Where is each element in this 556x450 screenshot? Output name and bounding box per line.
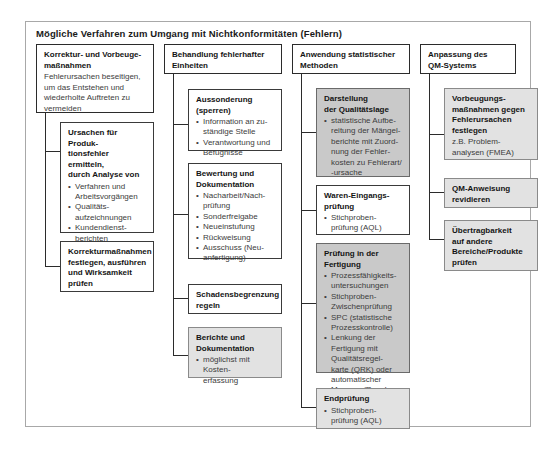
list-item: Qualitäts- aufzeichnungen: [68, 202, 147, 223]
node-schadensbegrenzung-regeln[interactable]: Schadensbegrenzung regeln: [188, 284, 282, 314]
node-title: Anpassung des QM-Systems: [428, 50, 509, 71]
node-title: Berichte und Dokumentation: [196, 333, 275, 354]
node-bewertung-dokumentation[interactable]: Bewertung und Dokumentation Nacharbeit/N…: [188, 163, 282, 259]
node-head-anwendung-statistischer-methoden[interactable]: Anwendung statistischer Methoden: [292, 44, 410, 74]
node-vorbeugungsmassnahmen[interactable]: Vorbeugungs- maßnahmen gegen Fehlerursac…: [444, 88, 538, 160]
list-item: Sonderfreigabe: [196, 212, 275, 222]
connector-horizontal-col2-child1: [173, 124, 188, 125]
node-title: Behandlung fehlerhafter Einheiten: [172, 50, 275, 71]
connector-horizontal-col4-child2: [429, 192, 444, 193]
node-subtext: Fehlerursachen beseitigen, um das Entste…: [44, 72, 147, 114]
list-item: Prozessfähigkeits- untersuchungen: [324, 271, 403, 292]
list-item: Stichproben- prüfung (AQL): [324, 406, 403, 427]
node-darstellung-qualitaetslage[interactable]: Darstellung der Qualitätslage statistisc…: [316, 88, 410, 177]
list-item: Verantwortung und Befugnisse: [196, 138, 275, 159]
list-item: statistische Aufbe- reitung der Mängel- …: [324, 116, 403, 178]
node-title: Bewertung und Dokumentation: [196, 169, 275, 190]
list-item: Stichproben- prüfung (AQL): [324, 213, 403, 234]
connector-vertical-col3: [301, 74, 302, 407]
connector-horizontal-col2-child4: [173, 355, 188, 356]
node-bullet-list: möglichst mit Kosten- erfassung: [196, 355, 275, 386]
list-item: Stichproben- Zwischenprüfung: [324, 292, 403, 313]
connector-horizontal-col2-child2: [173, 214, 188, 215]
list-item: Information an zu- ständige Stelle: [196, 117, 275, 138]
node-title: Schadensbegrenzung regeln: [196, 290, 275, 311]
connector-horizontal-col3-child4: [301, 407, 316, 408]
node-title: Übertragbarkeit auf andere Bereiche/Prod…: [452, 226, 531, 268]
node-title: Anwendung statistischer Methoden: [300, 50, 403, 71]
node-subtext: z.B. Problem- analysen (FMEA): [452, 137, 531, 158]
node-title: Endprüfung: [324, 394, 403, 405]
connector-vertical-col4: [429, 74, 430, 239]
node-head-behandlung-fehlerhafter-einheiten[interactable]: Behandlung fehlerhafter Einheiten: [164, 44, 282, 74]
list-item: Neueinstufung: [196, 222, 275, 232]
node-waren-eingangspruefung[interactable]: Waren-Eingangs- prüfung Stichproben- prü…: [316, 185, 410, 235]
node-bullet-list: statistische Aufbe- reitung der Mängel- …: [324, 116, 403, 178]
list-item: Nacharbeit/Nach- prüfung: [196, 191, 275, 212]
node-head-korrektur-vorbeugemassnahmen[interactable]: Korrektur- und Vorbeuge- maßnahmen Fehle…: [36, 44, 154, 113]
list-item: Lenkung der Fertigung mit Qualitätsregel…: [324, 333, 403, 395]
list-item: Verfahren und Arbeitsvorgängen: [68, 182, 147, 203]
node-title: Ursachen für Produk- tionsfehler ermitte…: [68, 128, 147, 181]
diagram-page: Mögliche Verfahren zum Umgang mit Nichtk…: [0, 0, 556, 450]
node-berichte-dokumentation[interactable]: Berichte und Dokumentation möglichst mit…: [188, 327, 282, 378]
node-qm-anweisung-revidieren[interactable]: QM-Anweisung revidieren: [444, 178, 538, 208]
list-item: SPC (statistische Prozesskontrolle): [324, 313, 403, 334]
node-title: Aussonderung (sperren): [196, 95, 275, 116]
node-bullet-list: Stichproben- prüfung (AQL): [324, 406, 403, 427]
node-bullet-list: Nacharbeit/Nach- prüfung Sonderfreigabe …: [196, 191, 275, 264]
connector-horizontal-col4-child3: [429, 239, 444, 240]
node-bullet-list: Information an zu- ständige Stelle Veran…: [196, 117, 275, 159]
connector-horizontal-col4-child1: [429, 134, 444, 135]
list-item: Ausschuss (Neu- anfertigung): [196, 243, 275, 264]
diagram-title: Mögliche Verfahren zum Umgang mit Nichtk…: [36, 28, 342, 39]
node-korrekturmassnahmen-festlegen[interactable]: Korrekturmaßnahmen festlegen, ausführen …: [60, 241, 154, 292]
node-title: Waren-Eingangs- prüfung: [324, 191, 403, 212]
node-title: Korrektur- und Vorbeuge- maßnahmen: [44, 50, 147, 71]
node-bullet-list: Stichproben- prüfung (AQL): [324, 213, 403, 234]
list-item: möglichst mit Kosten- erfassung: [196, 355, 275, 386]
node-endpruefung[interactable]: Endprüfung Stichproben- prüfung (AQL): [316, 388, 410, 429]
node-pruefung-in-der-fertigung[interactable]: Prüfung in der Fertigung Prozessfähigkei…: [316, 243, 410, 373]
node-title: QM-Anweisung revidieren: [452, 184, 531, 205]
node-title: Vorbeugungs- maßnahmen gegen Fehlerursac…: [452, 94, 531, 136]
connector-horizontal-col1-child1: [45, 151, 60, 152]
connector-horizontal-col1-child2: [45, 266, 60, 267]
connector-vertical-col1: [45, 113, 46, 266]
connector-horizontal-col2-child3: [173, 298, 188, 299]
node-title: Korrekturmaßnahmen festlegen, ausführen …: [68, 247, 147, 289]
node-ursachen-produktionsfehler[interactable]: Ursachen für Produk- tionsfehler ermitte…: [60, 122, 154, 233]
connector-horizontal-col3-child2: [301, 210, 316, 211]
node-aussonderung-sperren[interactable]: Aussonderung (sperren) Information an zu…: [188, 89, 282, 151]
node-bullet-list: Prozessfähigkeits- untersuchungen Stichp…: [324, 271, 403, 396]
node-head-anpassung-qm-systems[interactable]: Anpassung des QM-Systems: [420, 44, 516, 74]
connector-horizontal-col3-child1: [301, 132, 316, 133]
node-title: Darstellung der Qualitätslage: [324, 94, 403, 115]
list-item: Rückweisung: [196, 233, 275, 243]
node-uebertragbarkeit-pruefen[interactable]: Übertragbarkeit auf andere Bereiche/Prod…: [444, 220, 538, 271]
node-title: Prüfung in der Fertigung: [324, 249, 403, 270]
connector-horizontal-col3-child3: [301, 303, 316, 304]
